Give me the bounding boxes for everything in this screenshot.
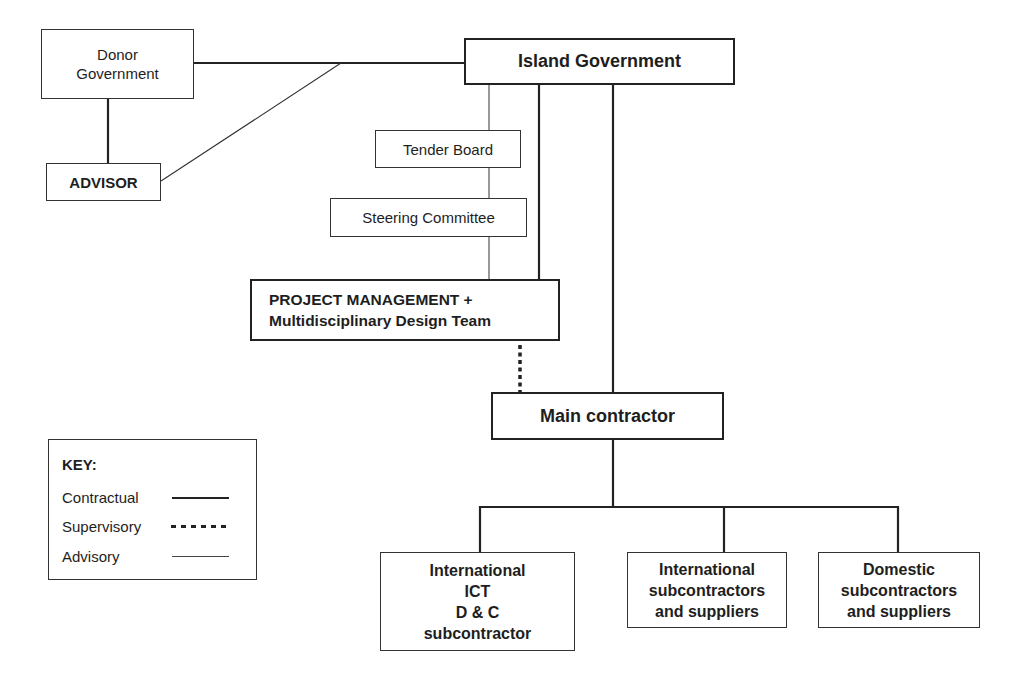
node-main-contractor: Main contractor bbox=[491, 392, 724, 440]
node-label: Donor bbox=[76, 45, 159, 64]
node-label: and suppliers bbox=[649, 601, 765, 622]
node-label: D & C bbox=[424, 602, 532, 623]
node-label: Island Government bbox=[518, 52, 681, 71]
node-domestic-subcontractors: Domestic subcontractors and suppliers bbox=[818, 552, 980, 628]
legend-solid-thin-line-icon bbox=[172, 556, 229, 557]
node-label: ADVISOR bbox=[69, 173, 137, 192]
node-label: Steering Committee bbox=[362, 208, 495, 227]
node-donor-government: Donor Government bbox=[41, 29, 194, 99]
legend-dotted-line-icon bbox=[171, 525, 229, 528]
node-advisor: ADVISOR bbox=[46, 163, 161, 201]
node-label: PROJECT MANAGEMENT + bbox=[269, 289, 491, 310]
node-tender-board: Tender Board bbox=[375, 130, 521, 168]
node-label: subcontractors bbox=[649, 580, 765, 601]
node-label: subcontractor bbox=[424, 623, 532, 644]
legend-label: Advisory bbox=[62, 548, 120, 565]
node-label: subcontractors bbox=[841, 580, 957, 601]
node-label: ICT bbox=[424, 581, 532, 602]
legend-item-contractual: Contractual bbox=[62, 489, 139, 506]
node-label: International bbox=[649, 559, 765, 580]
node-international-subcontractors: International subcontractors and supplie… bbox=[627, 552, 787, 628]
node-label: Government bbox=[76, 64, 159, 83]
node-steering-committee: Steering Committee bbox=[330, 198, 527, 237]
node-label: Multidisciplinary Design Team bbox=[269, 310, 491, 331]
node-label: International bbox=[424, 560, 532, 581]
node-label: and suppliers bbox=[841, 601, 957, 622]
legend-item-advisory: Advisory bbox=[62, 548, 120, 565]
node-label: Domestic bbox=[841, 559, 957, 580]
node-project-management: PROJECT MANAGEMENT + Multidisciplinary D… bbox=[250, 279, 560, 341]
node-island-government: Island Government bbox=[464, 38, 735, 85]
legend-solid-thick-line-icon bbox=[172, 497, 229, 499]
node-label: Main contractor bbox=[540, 407, 675, 426]
node-label: Tender Board bbox=[403, 140, 493, 159]
legend-label: Supervisory bbox=[62, 518, 141, 535]
legend-item-supervisory: Supervisory bbox=[62, 518, 141, 535]
node-international-ict: International ICT D & C subcontractor bbox=[380, 552, 575, 651]
legend-title: KEY: bbox=[62, 456, 97, 473]
legend-box: KEY: Contractual Supervisory Advisory bbox=[48, 439, 257, 580]
legend-label: Contractual bbox=[62, 489, 139, 506]
